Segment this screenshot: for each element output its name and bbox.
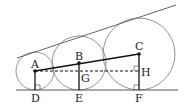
label-a: A bbox=[30, 58, 40, 71]
label-e: E bbox=[75, 92, 83, 105]
label-d: D bbox=[31, 92, 40, 105]
geometry-diagram: A B C D E F G H bbox=[0, 0, 188, 108]
label-b: B bbox=[75, 50, 83, 63]
label-h: H bbox=[141, 66, 151, 79]
right-angle-mark-f bbox=[134, 85, 139, 90]
upper-tangent-line bbox=[17, 5, 176, 58]
label-f: F bbox=[135, 92, 143, 105]
right-angle-mark-h bbox=[134, 66, 139, 71]
label-c: C bbox=[135, 40, 143, 53]
center-line-ac bbox=[35, 54, 139, 71]
label-g: G bbox=[81, 72, 90, 85]
